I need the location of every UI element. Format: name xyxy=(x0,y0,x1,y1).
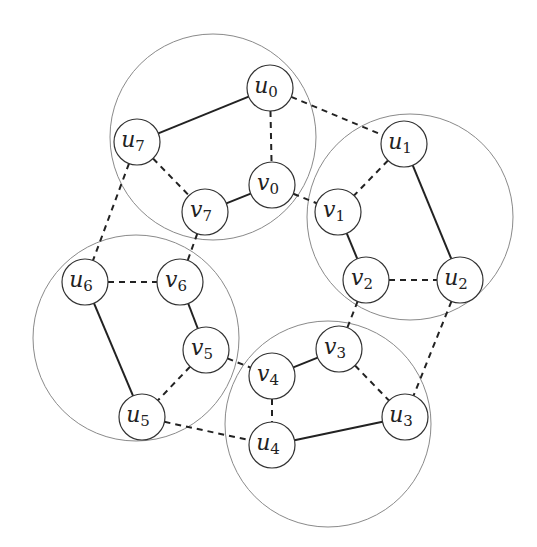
edge-u6-u5 xyxy=(94,303,133,396)
node-u4: u4 xyxy=(249,422,295,468)
edge-v1-v2 xyxy=(347,233,357,258)
node-v4: v4 xyxy=(249,353,295,399)
node-u2: u2 xyxy=(437,257,483,303)
edge-v4-v3 xyxy=(293,358,317,368)
graph-svg: u0u7v7v0u1v1v2u2u6v6v5u5v4v3u3u4 xyxy=(0,0,537,547)
graph-diagram: u0u7v7v0u1v1v2u2u6v6v5u5v4v3u3u4 xyxy=(0,0,537,547)
edge-u7-v7 xyxy=(153,158,189,195)
edge-v0-v7 xyxy=(226,194,250,204)
edge-u1-v1 xyxy=(354,161,388,196)
node-v6: v6 xyxy=(157,259,203,305)
edge-u0-v0 xyxy=(270,111,271,162)
edge-v5-u5 xyxy=(158,367,190,401)
edge-u0-u7 xyxy=(158,97,248,134)
node-v5: v5 xyxy=(183,327,229,373)
node-v1: v1 xyxy=(315,189,361,235)
edge-u1-u2 xyxy=(413,165,451,258)
node-v2: v2 xyxy=(343,257,389,303)
nodes: u0u7v7v0u1v1v2u2u6v6v5u5v4v3u3u4 xyxy=(62,65,483,468)
edge-u2-u3 xyxy=(414,301,452,395)
edge-v3-u3 xyxy=(355,366,389,401)
node-u3: u3 xyxy=(382,394,428,440)
node-u1: u1 xyxy=(381,121,427,167)
edge-u4-u3 xyxy=(295,422,383,441)
node-u5: u5 xyxy=(119,394,165,440)
node-u7: u7 xyxy=(114,119,160,165)
edge-v0-v1 xyxy=(293,194,316,204)
node-v7: v7 xyxy=(182,189,228,235)
edge-v6-v5 xyxy=(188,303,198,328)
edge-u7-u6 xyxy=(93,164,129,261)
node-u0: u0 xyxy=(247,65,293,111)
edge-u5-u4 xyxy=(164,422,249,440)
edge-u0-u1 xyxy=(291,97,383,135)
node-u6: u6 xyxy=(62,259,108,305)
node-v3: v3 xyxy=(316,326,362,372)
node-v0: v0 xyxy=(249,162,295,208)
